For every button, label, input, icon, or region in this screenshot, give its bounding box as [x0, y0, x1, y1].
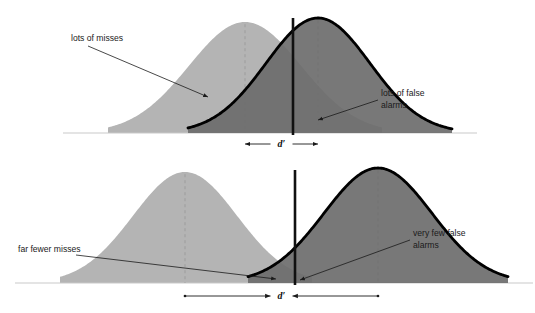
figure-canvas: lots of misses lots of false alarms d′: [0, 0, 535, 313]
bottom-dprime-label: d′: [278, 290, 286, 301]
top-dprime-label: d′: [278, 138, 286, 149]
signal-detection-figure: lots of misses lots of false alarms d′: [0, 0, 535, 313]
lots-of-misses-label: lots of misses: [71, 33, 123, 43]
far-fewer-misses-label: far fewer misses: [18, 244, 81, 254]
